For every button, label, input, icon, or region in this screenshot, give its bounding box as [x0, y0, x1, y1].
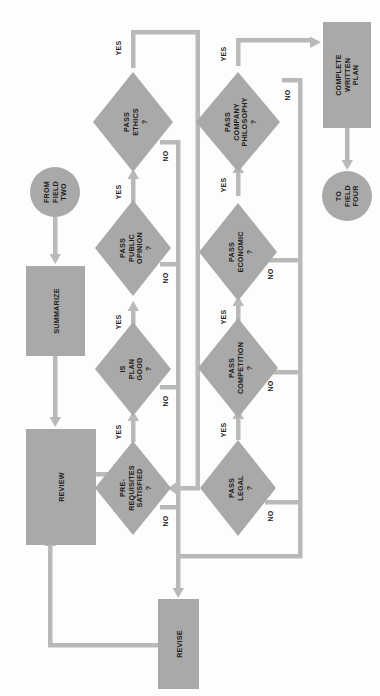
edge-label-publicopinion-no: NO	[162, 272, 169, 283]
node-pass-economic[interactable]: PASS ECONOMIC ?	[199, 203, 277, 301]
edge-label-philosophy-no: NO	[284, 89, 291, 100]
review-label: REVIEW	[57, 472, 66, 502]
flowchart-svg: FROM FIELD TWO SUMMARIZE REVIEW PRE- REQ…	[0, 0, 380, 696]
pass-economic-question-mark: ?	[245, 250, 254, 254]
node-summarize[interactable]: SUMMARIZE	[26, 266, 85, 356]
edge-label-isplangood-no: NO	[162, 395, 169, 406]
edge-label-competition-no: NO	[267, 380, 274, 391]
is-plan-good-line-3: GOOD	[135, 358, 144, 381]
edge-label-philosophy-yes: YES	[220, 47, 227, 62]
edge-label-ethics-yes: YES	[115, 41, 122, 56]
node-pass-ethics[interactable]: PASS ETHICS ?	[93, 72, 173, 172]
pass-competition-question-mark: ?	[245, 366, 254, 370]
pass-ethics-line-2: ETHICS	[131, 108, 140, 136]
node-complete-written-plan[interactable]: COMPLETE WRITTEN PLAN	[323, 22, 371, 128]
node-pass-public-opinion[interactable]: PASS PUBLIC OPINION ?	[95, 200, 171, 296]
to-field-four-line-3: FOUR	[351, 185, 360, 207]
edge-publicopinion-ethics-yes	[128, 169, 140, 204]
edge-fromfieldtwo-summarize	[50, 217, 62, 264]
node-pass-legal[interactable]: PASS LEGAL ?	[200, 440, 276, 536]
node-from-field-two[interactable]: FROM FIELD TWO	[30, 167, 80, 217]
edge-revise-review	[45, 536, 161, 648]
edge-label-legal-yes: YES	[220, 423, 227, 438]
node-pass-company-philosophy[interactable]: PASS COMPANY PHILOSOPHY ?	[196, 72, 280, 172]
pass-ethics-question-mark: ?	[140, 120, 149, 124]
edge-completeplan-tofieldfour	[342, 128, 354, 170]
is-plan-good-question-mark: ?	[144, 367, 153, 371]
flowchart-canvas: FROM FIELD TWO SUMMARIZE REVIEW PRE- REQ…	[0, 0, 380, 696]
edge-label-prereq-yes: YES	[115, 425, 122, 440]
revise-label: REVISE	[175, 630, 184, 658]
node-review[interactable]: REVIEW	[26, 429, 96, 545]
pass-economic-line-2: ECONOMIC	[236, 231, 245, 272]
from-field-two-line-3: TWO	[59, 183, 68, 201]
edge-label-prereq-no: NO	[162, 515, 169, 526]
edge-summarize-review	[50, 356, 62, 427]
node-revise[interactable]: REVISE	[158, 599, 199, 689]
node-to-field-four[interactable]: TO FIELD FOUR	[322, 171, 372, 221]
pass-public-opinion-line-3: OPINION	[135, 232, 144, 264]
pass-company-philosophy-question-mark: ?	[249, 120, 258, 124]
pass-legal-line-2: LEGAL	[236, 475, 245, 501]
edge-label-economic-no: NO	[267, 268, 274, 279]
node-prerequisites[interactable]: PRE- REQUISITES SATISFIED ?	[95, 441, 171, 535]
edge-label-economic-yes: YES	[220, 178, 227, 193]
edge-philosophy-completeplan-yes	[236, 37, 321, 67]
node-is-plan-good[interactable]: IS PLAN GOOD ?	[95, 322, 171, 416]
prerequisites-line-3: SATISFIED	[135, 469, 144, 508]
edge-label-publicopinion-yes: YES	[115, 185, 122, 200]
pass-company-philosophy-line-3: PHILOSOPHY	[240, 97, 249, 146]
edge-label-isplangood-yes: YES	[115, 315, 122, 330]
edge-label-legal-no: NO	[267, 510, 274, 521]
edge-label-competition-yes: YES	[220, 310, 227, 325]
complete-written-plan-line-3: PLAN	[351, 65, 360, 85]
pass-public-opinion-question-mark: ?	[144, 246, 153, 250]
edge-label-ethics-no: NO	[162, 150, 169, 161]
pass-legal-question-mark: ?	[245, 486, 254, 490]
pass-competition-line-2: COMPETITION	[236, 342, 245, 394]
prerequisites-question-mark: ?	[144, 486, 153, 490]
node-pass-competition[interactable]: PASS COMPETITION ?	[198, 318, 278, 418]
summarize-label: SUMMARIZE	[52, 288, 61, 333]
